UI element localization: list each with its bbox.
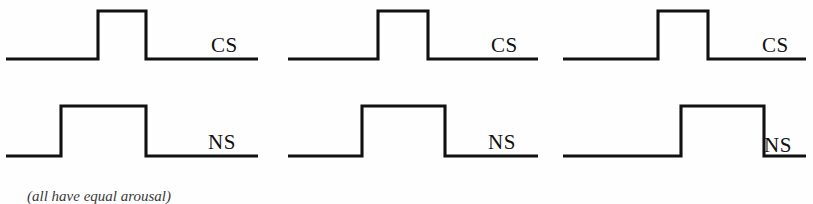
panel-3-label-cs: CS [762, 33, 789, 57]
panel-2-label-cs: CS [491, 33, 518, 57]
figure-caption: (all have equal arousal) [27, 188, 171, 204]
waveform-canvas: CSNSCSNSCSNS [0, 0, 813, 204]
panel-1-label-cs: CS [211, 33, 238, 57]
stimulus-waveform-figure: CSNSCSNSCSNS [0, 0, 813, 204]
panel-2-label-ns: NS [488, 130, 516, 154]
panel-1-label-ns: NS [208, 130, 236, 154]
panel-3-label-ns: NS [764, 133, 792, 157]
panel-group [6, 11, 806, 156]
trace-label-group: CSNSCSNSCSNS [208, 33, 792, 157]
